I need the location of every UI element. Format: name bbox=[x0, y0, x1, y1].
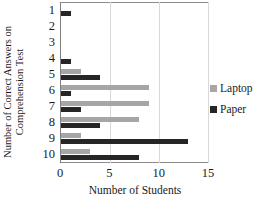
bar-group bbox=[61, 131, 208, 147]
bar-laptop bbox=[61, 149, 90, 154]
bar-paper bbox=[61, 11, 71, 16]
y-axis-tick-label: 6 bbox=[26, 82, 58, 98]
bar-laptop bbox=[61, 101, 149, 106]
x-axis-tick-label: 15 bbox=[202, 166, 215, 181]
bar-paper bbox=[61, 91, 71, 96]
y-axis-tick-label: 4 bbox=[26, 50, 58, 66]
bar-laptop bbox=[61, 85, 149, 90]
bar-group bbox=[61, 99, 208, 115]
x-axis-tick-label: 5 bbox=[106, 166, 112, 181]
bar-paper bbox=[61, 155, 139, 160]
bar-paper bbox=[61, 139, 188, 144]
bar-paper bbox=[61, 59, 71, 64]
bar-paper bbox=[61, 123, 100, 128]
bar-group bbox=[61, 147, 208, 163]
legend-label: Paper bbox=[220, 103, 246, 115]
y-axis-tick-label: 2 bbox=[26, 18, 58, 34]
bar-paper bbox=[61, 75, 100, 80]
legend-swatch-icon bbox=[210, 106, 217, 113]
gridline bbox=[208, 2, 209, 163]
bar-group bbox=[61, 2, 208, 18]
y-axis-tick-label: 5 bbox=[26, 66, 58, 82]
bar-group bbox=[61, 66, 208, 82]
plot-area bbox=[60, 2, 208, 163]
bar-group bbox=[61, 50, 208, 66]
bar-laptop bbox=[61, 117, 139, 122]
y-axis-tick-label: 1 bbox=[26, 2, 58, 18]
y-axis-title: Number of Correct Answers on Comprehensi… bbox=[0, 6, 28, 178]
y-axis-tick-label: 10 bbox=[26, 147, 58, 163]
y-axis-tick-label: 7 bbox=[26, 99, 58, 115]
legend-entry-laptop[interactable]: Laptop bbox=[210, 82, 267, 94]
y-axis-tick-label: 9 bbox=[26, 131, 58, 147]
x-axis-tick-label: 10 bbox=[152, 166, 165, 181]
bar-group bbox=[61, 115, 208, 131]
bar-laptop bbox=[61, 133, 81, 138]
y-axis-tick-labels: 12345678910 bbox=[26, 2, 58, 163]
bar-groups bbox=[61, 2, 208, 163]
x-axis-title: Number of Students bbox=[40, 184, 230, 196]
bar-group bbox=[61, 34, 208, 50]
bar-chart: Number of Correct Answers on Comprehensi… bbox=[0, 0, 267, 205]
legend: LaptopPaper bbox=[210, 82, 267, 124]
y-axis-tick-label: 8 bbox=[26, 115, 58, 131]
legend-label: Laptop bbox=[220, 82, 253, 94]
x-axis-tick-labels: 051015 bbox=[60, 166, 208, 182]
legend-swatch-icon bbox=[210, 85, 217, 92]
bar-group bbox=[61, 18, 208, 34]
bar-group bbox=[61, 82, 208, 98]
y-axis-tick-label: 3 bbox=[26, 34, 58, 50]
legend-entry-paper[interactable]: Paper bbox=[210, 103, 267, 115]
x-axis-tick-label: 0 bbox=[57, 166, 63, 181]
bar-paper bbox=[61, 107, 81, 112]
bar-laptop bbox=[61, 69, 81, 74]
